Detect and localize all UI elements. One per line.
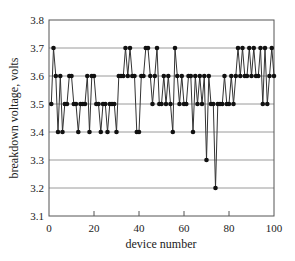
data-point [153, 74, 158, 79]
data-point [200, 102, 205, 107]
x-tick-label: 60 [179, 222, 191, 234]
data-point [126, 74, 131, 79]
data-point [65, 102, 70, 107]
y-tick-label: 3.8 [30, 14, 44, 26]
plot-frame [49, 20, 274, 216]
data-point [69, 74, 74, 79]
data-point [198, 74, 203, 79]
gridlines [49, 48, 274, 188]
data-point [166, 74, 171, 79]
data-point [234, 74, 239, 79]
x-tick-label: 40 [134, 222, 146, 234]
data-point [211, 102, 216, 107]
data-point [155, 46, 160, 51]
data-point [207, 74, 212, 79]
y-tick-label: 3.3 [30, 154, 44, 166]
data-point [121, 74, 126, 79]
data-point [128, 46, 133, 51]
data-point [54, 74, 59, 79]
data-point [222, 74, 227, 79]
data-point [263, 46, 268, 51]
data-point [159, 102, 164, 107]
x-tick-label: 100 [266, 222, 283, 234]
data-point [132, 74, 137, 79]
data-point [123, 46, 128, 51]
data-point [76, 130, 81, 135]
data-point [83, 102, 88, 107]
data-point [58, 74, 63, 79]
x-tick-label: 80 [224, 222, 236, 234]
y-tick-label: 3.2 [30, 182, 44, 194]
x-tick-label: 0 [46, 222, 52, 234]
data-point [195, 102, 200, 107]
data-point [171, 130, 176, 135]
series-line [51, 48, 274, 188]
data-point [148, 74, 153, 79]
y-tick-label: 3.7 [30, 42, 44, 54]
data-point [193, 74, 198, 79]
data-point [238, 74, 243, 79]
y-axis-label: breakdown voltage, volts [7, 57, 21, 178]
data-point [236, 46, 241, 51]
line-chart: 3.13.23.33.43.53.63.73.8 020406080100 de… [0, 0, 295, 261]
data-point [270, 46, 275, 51]
data-point [112, 102, 117, 107]
data-point [191, 130, 196, 135]
data-point [105, 130, 110, 135]
data-point [213, 186, 218, 191]
data-point [51, 46, 56, 51]
data-point [92, 74, 97, 79]
data-point [56, 130, 61, 135]
data-point [137, 130, 142, 135]
data-point [184, 102, 189, 107]
data-point [265, 102, 270, 107]
data-point [245, 74, 250, 79]
x-axis-label: device number [126, 237, 197, 251]
data-point [267, 74, 272, 79]
data-points [49, 46, 276, 191]
data-point [227, 102, 232, 107]
data-point [168, 102, 173, 107]
data-point [150, 102, 155, 107]
data-point [229, 74, 234, 79]
y-tick-label: 3.1 [30, 210, 44, 222]
data-point [256, 74, 261, 79]
data-point [220, 102, 225, 107]
data-point [258, 46, 263, 51]
data-point [141, 74, 146, 79]
x-tick-label: 20 [89, 222, 101, 234]
data-point [96, 102, 101, 107]
data-point [99, 130, 104, 135]
y-axis: 3.13.23.33.43.53.63.73.8 [30, 14, 44, 222]
y-tick-label: 3.6 [30, 70, 44, 82]
data-point [175, 74, 180, 79]
data-point [202, 74, 207, 79]
data-point [272, 74, 277, 79]
data-point [177, 102, 182, 107]
data-point [146, 46, 151, 51]
data-point [103, 102, 108, 107]
x-axis: 020406080100 [46, 211, 283, 234]
y-tick-label: 3.4 [30, 126, 44, 138]
data-point [60, 130, 65, 135]
data-point [261, 102, 266, 107]
data-point [85, 74, 90, 79]
data-point [252, 46, 257, 51]
data-point [49, 102, 54, 107]
data-point [249, 74, 254, 79]
data-point [180, 74, 185, 79]
data-point [87, 130, 92, 135]
data-point [189, 74, 194, 79]
data-point [204, 158, 209, 163]
data-point [74, 102, 79, 107]
y-tick-label: 3.5 [30, 98, 44, 110]
data-point [240, 46, 245, 51]
data-point [247, 46, 252, 51]
data-point [231, 102, 236, 107]
data-point [173, 46, 178, 51]
data-point [164, 102, 169, 107]
data-point [114, 130, 119, 135]
data-point [162, 74, 167, 79]
